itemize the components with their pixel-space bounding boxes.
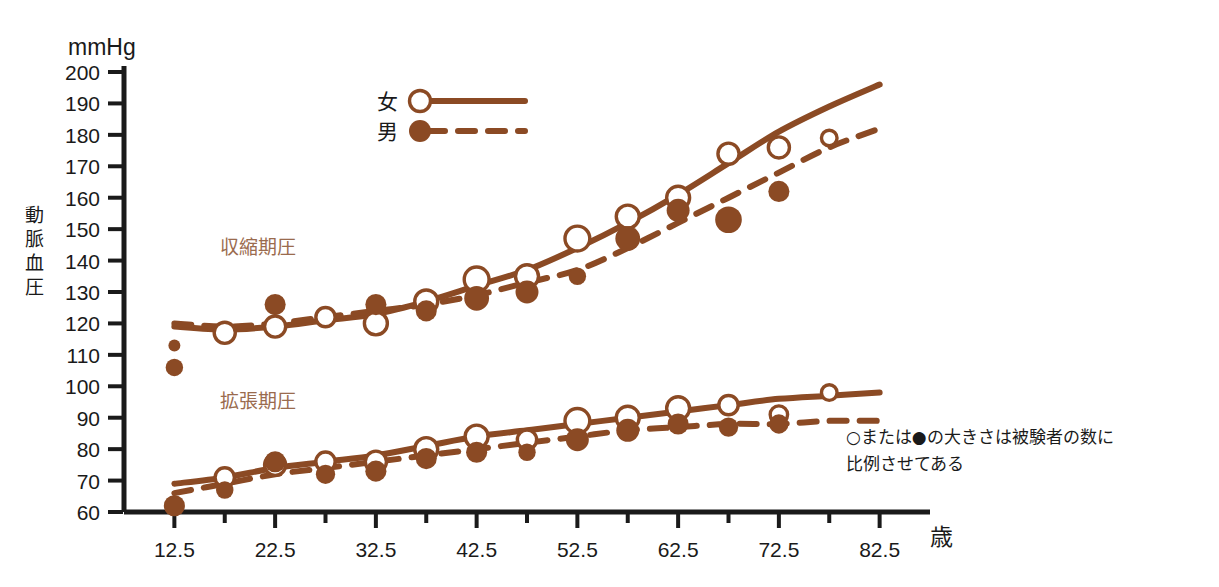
x-axis-unit-label: 歳 bbox=[930, 524, 953, 550]
x-axis-tick-label: 82.5 bbox=[859, 538, 900, 561]
data-point-male-diastolic bbox=[719, 418, 738, 437]
data-point-male-diastolic bbox=[566, 428, 589, 451]
y-axis-tick-label: 170 bbox=[65, 155, 100, 178]
x-axis-tick-label: 32.5 bbox=[355, 538, 396, 561]
y-axis-tick-label: 90 bbox=[77, 407, 100, 430]
y-axis-tick-label: 130 bbox=[65, 281, 100, 304]
systolic-label: 収縮期圧 bbox=[220, 236, 296, 258]
diastolic-label: 拡張期圧 bbox=[220, 390, 296, 412]
data-point-male-diastolic bbox=[466, 442, 487, 463]
data-point-female-systolic bbox=[316, 308, 335, 327]
legend-marker-female bbox=[410, 91, 431, 112]
data-point-female-systolic bbox=[214, 322, 235, 343]
data-point-male-systolic bbox=[768, 181, 789, 202]
data-point-male-systolic bbox=[615, 226, 640, 251]
data-point-male-diastolic bbox=[164, 495, 185, 516]
data-point-male-systolic bbox=[516, 281, 539, 304]
legend-marker-male bbox=[409, 120, 431, 142]
y-axis-tick-label: 80 bbox=[77, 438, 100, 461]
y-axis-tick-label: 120 bbox=[65, 312, 100, 335]
x-axis-tick-label: 42.5 bbox=[456, 538, 497, 561]
data-point-male-diastolic bbox=[668, 413, 689, 434]
data-point-male-systolic bbox=[416, 300, 437, 321]
data-point-female-systolic bbox=[265, 316, 286, 337]
data-point-male-diastolic bbox=[616, 419, 639, 442]
data-point-female-systolic bbox=[364, 312, 387, 335]
y-axis-tick-label: 110 bbox=[67, 344, 100, 367]
y-axis-tick-label: 180 bbox=[65, 124, 100, 147]
data-point-male-diastolic bbox=[265, 451, 286, 472]
y-axis-tick-label: 150 bbox=[65, 218, 100, 241]
x-axis-tick-label: 52.5 bbox=[557, 538, 598, 561]
data-point-female-systolic bbox=[718, 143, 739, 164]
marker-size-note-line2: 比例させてある bbox=[846, 454, 964, 474]
data-point-male-systolic bbox=[464, 286, 489, 311]
data-point-male-systolic bbox=[569, 268, 586, 285]
data-point-male-systolic bbox=[168, 339, 180, 351]
y-axis-tick-label: 160 bbox=[65, 187, 100, 210]
x-axis-tick-label: 62.5 bbox=[658, 538, 699, 561]
y-axis-tick-label: 200 bbox=[65, 61, 100, 84]
x-axis-tick-label: 72.5 bbox=[758, 538, 799, 561]
x-axis-tick-label: 22.5 bbox=[255, 538, 296, 561]
y-axis-tick-label: 140 bbox=[65, 250, 100, 273]
data-point-female-diastolic bbox=[821, 385, 837, 401]
data-point-female-systolic bbox=[821, 130, 837, 146]
data-point-male-diastolic bbox=[216, 481, 233, 498]
y-axis-tick-label: 100 bbox=[65, 375, 100, 398]
data-point-male-diastolic bbox=[316, 465, 335, 484]
data-point-female-systolic bbox=[565, 226, 590, 251]
data-point-male-systolic bbox=[166, 359, 183, 376]
data-point-male-diastolic bbox=[416, 448, 437, 469]
data-point-female-systolic bbox=[616, 205, 639, 228]
y-axis-title-char: 脈 bbox=[25, 228, 44, 250]
marker-size-note-line1: ○または●の大きさは被験者の数に bbox=[846, 427, 1114, 447]
data-point-male-diastolic bbox=[769, 414, 788, 433]
y-axis-title-char: 血 bbox=[25, 252, 44, 274]
blood-pressure-chart-figure: 6070809010011012013014015016017018019020… bbox=[0, 0, 1219, 587]
chart-background bbox=[0, 0, 1219, 587]
x-axis-tick-label: 12.5 bbox=[154, 538, 195, 561]
data-point-male-systolic bbox=[365, 294, 386, 315]
legend-label-female: 女 bbox=[377, 90, 398, 114]
y-axis-title-char: 圧 bbox=[25, 276, 44, 298]
y-axis-title-char: 動 bbox=[25, 204, 44, 226]
y-axis-tick-label: 190 bbox=[65, 92, 100, 115]
y-axis-tick-label: 70 bbox=[77, 470, 100, 493]
data-point-female-diastolic bbox=[719, 396, 738, 415]
data-point-male-diastolic bbox=[365, 461, 386, 482]
chart-canvas: 6070809010011012013014015016017018019020… bbox=[0, 0, 1219, 587]
data-point-female-systolic bbox=[768, 137, 789, 158]
data-point-male-diastolic bbox=[518, 444, 535, 461]
legend-label-male: 男 bbox=[377, 120, 398, 144]
data-point-male-systolic bbox=[667, 199, 690, 222]
data-point-male-systolic bbox=[265, 294, 286, 315]
y-axis-unit-label: mmHg bbox=[68, 34, 136, 60]
data-point-male-systolic bbox=[715, 206, 742, 233]
y-axis-tick-label: 60 bbox=[77, 501, 100, 524]
